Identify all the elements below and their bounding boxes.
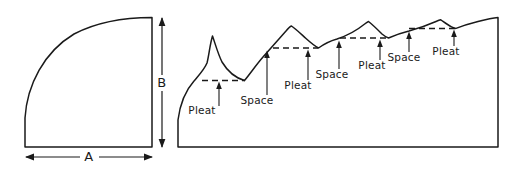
callout-pleat-1-label: Pleat (188, 104, 215, 116)
callout-pleat-4-label: Pleat (432, 45, 459, 57)
width-dimension-label: A (84, 149, 93, 164)
callout-space-2-label: Space (316, 68, 349, 80)
figure-root: A B (0, 0, 521, 169)
technical-drawing-canvas: A B (0, 0, 521, 169)
height-dimension-label: B (157, 75, 166, 90)
callout-pleat-3-label: Pleat (358, 59, 385, 71)
callout-space-3-label: Space (388, 51, 421, 63)
callout-space-1-label: Space (241, 94, 274, 106)
callout-pleat-2-label: Pleat (284, 79, 311, 91)
